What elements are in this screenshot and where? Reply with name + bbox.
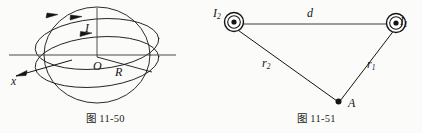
current-arrowhead-back: [46, 13, 58, 18]
figure-caption: 图 11-51: [211, 110, 422, 125]
figure-11-50: I O R x 图 11-50: [0, 0, 211, 133]
field-point-A-dot: [336, 99, 342, 105]
distance-label-r1: r1: [367, 58, 375, 71]
current-label-I1: I1: [400, 15, 408, 28]
current-label-I2-sub: 2: [217, 12, 221, 21]
figure-11-51: I2 I1 d r2 r1 A 图 11-51: [211, 0, 422, 133]
current-label-I2: I2: [213, 7, 221, 20]
field-point-label-A: A: [348, 97, 355, 109]
axis-label-x: x: [11, 76, 16, 88]
center-label-O: O: [93, 60, 102, 72]
figure-sheet: I O R x 图 11-50: [0, 0, 422, 133]
distance-line-r2: [235, 28, 337, 101]
current-out-of-page-dot-left: [231, 19, 236, 24]
current-label-I: I: [85, 22, 89, 34]
current-arrowhead-top: [70, 15, 82, 20]
distance-label-r2: r2: [262, 57, 270, 70]
distance-label-r2-sub: 2: [267, 62, 271, 71]
figure-caption: 图 11-50: [0, 110, 211, 125]
radius-label-R: R: [115, 66, 122, 78]
distance-label-r1-sub: 1: [372, 63, 376, 72]
radius-line: [97, 57, 152, 72]
wire-symbol-left: [225, 13, 244, 32]
current-label-I1-sub: 1: [404, 20, 408, 29]
separation-label-d: d: [307, 7, 313, 19]
x-axis-arrowhead: [16, 71, 27, 77]
current-out-of-page-dot-right: [393, 20, 398, 25]
